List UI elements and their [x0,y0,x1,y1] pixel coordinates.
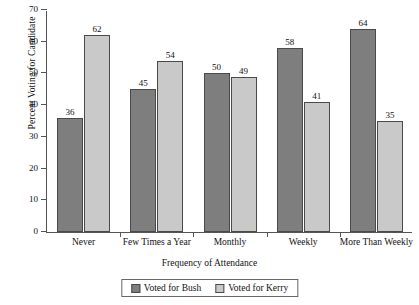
bar-value-label: 36 [66,108,75,117]
bar-value-label: 54 [166,51,175,60]
y-tick: 70 [41,9,47,10]
bar-chart-figure: Percent Voting for Candidate 01020304050… [0,0,419,305]
bar-value-label: 64 [358,19,367,28]
y-tick-label: 70 [29,4,38,14]
x-tick [267,232,268,237]
bar-value-label: 58 [285,38,294,47]
bar: 64 [350,29,376,232]
legend-item: Voted for Kerry [215,283,288,293]
y-axis-title: Percent Voting for Candidate [27,0,37,173]
bar: 45 [130,89,156,232]
y-tick: 40 [41,104,47,105]
y-tick: 0 [41,231,47,232]
y-tick-label: 30 [29,131,38,141]
x-category-label: Monthly [214,237,247,247]
y-tick-label: 40 [29,99,38,109]
y-tick: 50 [41,72,47,73]
legend-item: Voted for Bush [131,283,201,293]
x-category-label: Weekly [289,237,318,247]
bar: 62 [84,35,110,232]
x-category-label: More Than Weekly [340,237,413,247]
y-tick: 10 [41,199,47,200]
bar-value-label: 49 [239,67,248,76]
y-tick-label: 20 [29,163,38,173]
y-tick: 30 [41,136,47,137]
y-tick: 20 [41,168,47,169]
bar-value-label: 41 [312,92,321,101]
bar: 49 [231,77,257,232]
y-tick-label: 10 [29,194,38,204]
bar: 35 [377,121,403,232]
bar-value-label: 35 [385,111,394,120]
legend-label: Voted for Bush [144,283,201,293]
x-category-label: Few Times a Year [123,237,191,247]
bar-value-label: 50 [212,63,221,72]
y-tick-label: 60 [29,36,38,46]
bar: 36 [57,118,83,232]
legend-label: Voted for Kerry [228,283,288,293]
bar-value-label: 62 [93,25,102,34]
chart-legend: Voted for BushVoted for Kerry [121,279,298,297]
bar: 50 [204,73,230,232]
legend-swatch-icon [131,284,140,293]
plot-area: 010203040506070 36624554504958416435 Nev… [46,11,412,233]
bar: 54 [157,61,183,232]
bar-value-label: 45 [139,79,148,88]
x-tick [120,232,121,237]
bar: 58 [277,48,303,232]
y-tick-label: 50 [29,67,38,77]
legend-swatch-icon [215,284,224,293]
y-tick-label: 0 [34,226,39,236]
x-tick [193,232,194,237]
x-axis-title: Frequency of Attendance [0,258,419,268]
bar: 41 [304,102,330,232]
x-category-label: Never [72,237,95,247]
y-tick: 60 [41,41,47,42]
